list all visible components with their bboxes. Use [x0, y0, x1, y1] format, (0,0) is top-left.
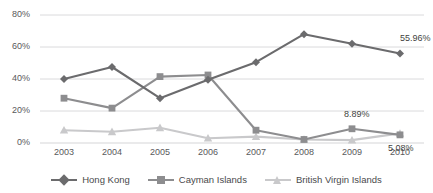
legend-square-icon [157, 176, 165, 184]
gridlines [40, 15, 424, 143]
x-axis-tick-label: 2009 [332, 147, 372, 157]
chart-plot-area [0, 0, 433, 193]
legend-label-cayman-islands: Cayman Islands [179, 174, 247, 185]
data-point-square-marker [349, 125, 356, 132]
x-axis-tick-label: 2006 [188, 147, 228, 157]
data-point-square-marker [397, 131, 404, 138]
legend-marker-diamond-icon [51, 174, 77, 185]
y-axis-tick-label: 20% [2, 105, 30, 115]
legend-item-british-virgin-islands[interactable]: British Virgin Islands [265, 174, 382, 185]
line-chart: 0%20%40%60%80% 2003200420052006200720082… [0, 0, 433, 193]
legend-label-hong-kong: Hong Kong [82, 174, 130, 185]
legend-diamond-icon [59, 174, 70, 185]
legend-item-cayman-islands[interactable]: Cayman Islands [148, 174, 247, 185]
data-point-square-marker [157, 73, 164, 80]
x-axis-tick-label: 2004 [92, 147, 132, 157]
data-value-label: 8.89% [344, 109, 370, 119]
data-value-label: 55.96% [400, 33, 431, 43]
legend-marker-square-icon [148, 174, 174, 185]
y-axis-tick-label: 60% [2, 41, 30, 51]
data-point-square-marker [61, 95, 68, 102]
legend-marker-triangle-icon [265, 174, 291, 185]
data-point-diamond-marker [60, 75, 68, 83]
data-point-square-marker [301, 136, 308, 143]
x-axis-tick-label: 2003 [44, 147, 84, 157]
legend-triangle-icon [273, 176, 281, 184]
y-axis-tick-label: 40% [2, 73, 30, 83]
x-axis-tick-label: 2005 [140, 147, 180, 157]
data-value-label: 5.08% [388, 143, 414, 153]
chart-legend: Hong Kong Cayman Islands British Virgin … [0, 169, 433, 189]
y-axis-tick-label: 0% [2, 137, 30, 147]
x-axis-tick-label: 2008 [284, 147, 324, 157]
x-axis-tick-label: 2007 [236, 147, 276, 157]
y-axis-tick-label: 80% [2, 9, 30, 19]
data-point-square-marker [109, 105, 116, 112]
legend-item-hong-kong[interactable]: Hong Kong [51, 174, 130, 185]
legend-label-british-virgin-islands: British Virgin Islands [296, 174, 382, 185]
data-point-diamond-marker [396, 49, 404, 57]
data-point-square-marker [253, 127, 260, 134]
